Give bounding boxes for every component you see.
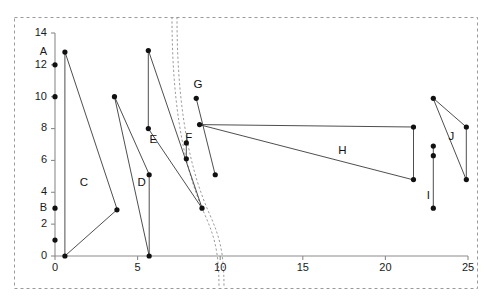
data-point (411, 124, 416, 129)
data-point (52, 62, 57, 67)
region-divider-curve-right (177, 17, 224, 288)
axis-point-label: B (40, 201, 47, 213)
y-axis-tick-label: 8 (41, 121, 47, 133)
x-axis-tick-label: 25 (462, 261, 474, 273)
data-point (147, 253, 152, 258)
data-point (411, 177, 416, 182)
axis-point-label: A (40, 45, 48, 57)
shape-label-f: F (185, 131, 192, 143)
data-point (52, 94, 57, 99)
data-point (194, 96, 199, 101)
shape-e (148, 51, 202, 209)
shape-c (65, 52, 117, 256)
shape-label-j: J (449, 130, 455, 142)
shapes-group (52, 48, 469, 259)
data-point (62, 50, 67, 55)
data-point (146, 48, 151, 53)
y-axis-tick-label: 12 (35, 58, 47, 70)
data-point (184, 156, 189, 161)
data-point (112, 94, 117, 99)
data-point (199, 206, 204, 211)
x-axis-tick-label: 0 (52, 261, 58, 273)
shape-label-c: C (80, 176, 88, 188)
data-point (431, 206, 436, 211)
scatter-plot-svg: 024681012140510152025 ABCDEFGHIJ (0, 0, 492, 302)
region-boundaries (15, 17, 478, 289)
data-point (52, 237, 57, 242)
shape-g (196, 98, 215, 175)
y-axis-tick-label: 0 (41, 249, 47, 261)
axes-group: 024681012140510152025 (35, 26, 474, 273)
data-point (62, 253, 67, 258)
shape-h (200, 125, 414, 180)
data-point (147, 172, 152, 177)
data-point (431, 96, 436, 101)
data-point (197, 122, 202, 127)
y-axis-tick-label: 2 (41, 217, 47, 229)
data-point (464, 177, 469, 182)
shape-label-i: I (427, 189, 430, 201)
data-point (52, 206, 57, 211)
shape-label-e: E (149, 133, 157, 145)
data-point (464, 124, 469, 129)
axis-lines (55, 33, 468, 256)
x-axis-tick-label: 15 (297, 261, 309, 273)
data-point (213, 172, 218, 177)
y-axis-tick-label: 4 (41, 185, 47, 197)
y-axis-tick-label: 6 (41, 153, 47, 165)
data-point (114, 207, 119, 212)
shape-label-h: H (338, 144, 346, 156)
outer-dashed-frame (15, 18, 478, 289)
shape-label-d: D (138, 176, 146, 188)
y-axis-tick-label: 10 (35, 90, 47, 102)
region-divider-curve-left (172, 17, 219, 288)
x-axis-tick-label: 10 (214, 261, 226, 273)
labels-group: ABCDEFGHIJ (40, 45, 455, 213)
x-axis-tick-label: 20 (379, 261, 391, 273)
shape-label-g: G (193, 78, 202, 90)
x-axis-tick-label: 5 (135, 261, 141, 273)
data-point (431, 153, 436, 158)
data-point (431, 143, 436, 148)
y-axis-tick-label: 14 (35, 26, 47, 38)
chart-canvas: 024681012140510152025 ABCDEFGHIJ (0, 0, 492, 302)
data-point (146, 126, 151, 131)
